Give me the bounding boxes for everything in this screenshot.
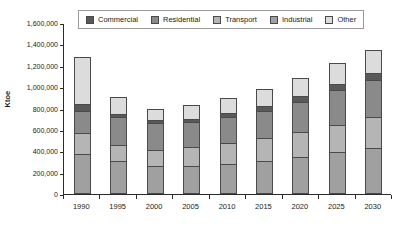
bar-segment-transport[interactable]: [292, 132, 309, 157]
legend-swatch-icon: [86, 16, 94, 24]
bar-segment-industrial[interactable]: [365, 148, 382, 194]
x-axis-label-1990: 1990: [61, 202, 101, 211]
bar-segment-transport[interactable]: [110, 145, 127, 160]
bar-segment-residential[interactable]: [110, 117, 127, 146]
bar-segment-transport[interactable]: [220, 143, 237, 163]
y-axis-tick-label: 600,000: [33, 127, 58, 134]
x-axis-label-2010: 2010: [207, 202, 247, 211]
bar-segment-residential[interactable]: [292, 102, 309, 132]
x-axis-tick-mark: [391, 195, 392, 199]
bar-group: [64, 24, 391, 194]
y-axis-tick-label: 1,000,000: [27, 84, 58, 91]
x-axis-label-2030: 2030: [353, 202, 393, 211]
bar-segment-other[interactable]: [147, 109, 164, 121]
bar-segment-other[interactable]: [329, 63, 346, 84]
legend-item-commercial[interactable]: Commercial: [86, 16, 138, 24]
x-axis-label-1995: 1995: [98, 202, 138, 211]
bar-segment-industrial[interactable]: [256, 161, 273, 194]
chart-legend: CommercialResidentialTransportIndustrial…: [78, 10, 364, 29]
y-axis-tick-label: 200,000: [33, 170, 58, 177]
x-axis-tick-mark: [209, 195, 210, 199]
plot-area: [63, 24, 391, 195]
bar-segment-other[interactable]: [110, 97, 127, 114]
legend-item-residential[interactable]: Residential: [151, 16, 200, 24]
bar-2025[interactable]: [329, 58, 346, 194]
bar-segment-residential[interactable]: [329, 90, 346, 124]
x-axis-label-2000: 2000: [134, 202, 174, 211]
x-axis-tick-mark: [318, 195, 319, 199]
y-axis-tick-label: 800,000: [33, 106, 58, 113]
bar-segment-other[interactable]: [74, 57, 91, 104]
bar-segment-transport[interactable]: [74, 133, 91, 154]
legend-item-label: Other: [337, 16, 356, 24]
x-axis-tick-mark: [355, 195, 356, 199]
x-axis-label-2015: 2015: [243, 202, 283, 211]
bar-segment-transport[interactable]: [365, 117, 382, 148]
bar-1995[interactable]: [110, 97, 127, 194]
bar-2005[interactable]: [183, 100, 200, 194]
x-axis-tick-mark: [63, 195, 64, 199]
bar-segment-other[interactable]: [256, 89, 273, 106]
legend-item-other[interactable]: Other: [325, 16, 356, 24]
bar-2000[interactable]: [147, 105, 164, 194]
bar-segment-industrial[interactable]: [74, 154, 91, 194]
bar-segment-other[interactable]: [365, 50, 382, 73]
bar-segment-residential[interactable]: [220, 117, 237, 144]
bar-segment-transport[interactable]: [256, 138, 273, 161]
y-axis-tick-label: 1,600,000: [27, 20, 58, 27]
bar-segment-industrial[interactable]: [329, 152, 346, 194]
y-axis-tick-label: 1,400,000: [27, 41, 58, 48]
y-axis-tick-group: 0200,000400,000600,000800,0001,000,0001,…: [0, 24, 63, 195]
bar-segment-residential[interactable]: [147, 123, 164, 150]
legend-swatch-icon: [325, 16, 333, 24]
y-axis-tick-label: 400,000: [33, 148, 58, 155]
x-axis-label-2005: 2005: [171, 202, 211, 211]
x-axis-tick-group: [63, 195, 391, 200]
legend-item-transport[interactable]: Transport: [213, 16, 257, 24]
bar-2015[interactable]: [256, 84, 273, 194]
bar-segment-industrial[interactable]: [183, 166, 200, 194]
legend-swatch-icon: [213, 16, 221, 24]
bar-segment-other[interactable]: [183, 105, 200, 119]
bar-segment-residential[interactable]: [256, 111, 273, 138]
y-axis-tick-label: 0: [54, 191, 58, 198]
legend-item-label: Residential: [163, 16, 200, 24]
bar-2020[interactable]: [292, 73, 309, 194]
bar-segment-residential[interactable]: [74, 111, 91, 133]
legend-swatch-icon: [151, 16, 159, 24]
x-axis-tick-mark: [282, 195, 283, 199]
x-axis-tick-mark: [245, 195, 246, 199]
bar-segment-other[interactable]: [220, 98, 237, 113]
x-axis-label-group: 199019952000200520102015202020252030: [63, 202, 391, 216]
bar-1990[interactable]: [74, 57, 91, 194]
legend-item-industrial[interactable]: Industrial: [270, 16, 312, 24]
bar-2010[interactable]: [220, 94, 237, 194]
x-axis-tick-mark: [136, 195, 137, 199]
bar-segment-industrial[interactable]: [292, 157, 309, 194]
bar-segment-transport[interactable]: [183, 147, 200, 166]
bar-segment-residential[interactable]: [365, 80, 382, 116]
x-axis-label-2020: 2020: [280, 202, 320, 211]
bar-segment-industrial[interactable]: [147, 166, 164, 194]
bar-2030[interactable]: [365, 44, 382, 194]
y-axis-tick-label: 1,200,000: [27, 63, 58, 70]
legend-item-label: Commercial: [98, 16, 138, 24]
bar-segment-transport[interactable]: [147, 150, 164, 166]
bar-segment-industrial[interactable]: [220, 164, 237, 194]
legend-item-label: Industrial: [282, 16, 312, 24]
bar-segment-transport[interactable]: [329, 125, 346, 153]
stacked-bar-chart: Ktoe 0200,000400,000600,000800,0001,000,…: [0, 0, 398, 231]
bar-segment-commercial[interactable]: [365, 73, 382, 80]
bar-segment-industrial[interactable]: [110, 161, 127, 194]
x-axis-tick-mark: [172, 195, 173, 199]
x-axis-label-2025: 2025: [316, 202, 356, 211]
bar-segment-other[interactable]: [292, 78, 309, 97]
legend-swatch-icon: [270, 16, 278, 24]
legend-item-label: Transport: [225, 16, 257, 24]
x-axis-tick-mark: [99, 195, 100, 199]
bar-segment-residential[interactable]: [183, 122, 200, 147]
